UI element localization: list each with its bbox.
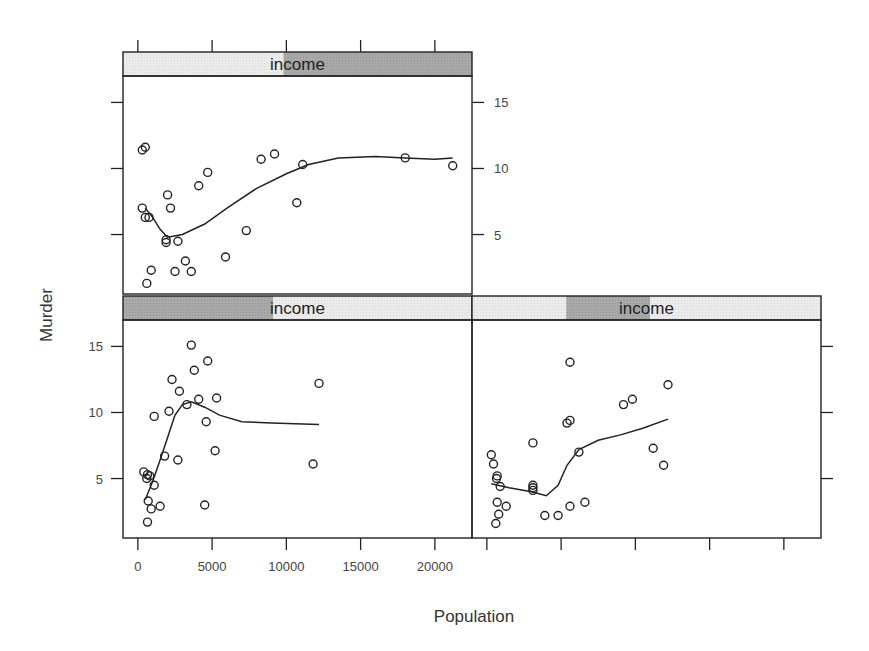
data-point (271, 150, 279, 158)
y-tick-label: 5 (494, 228, 501, 243)
data-point (495, 510, 503, 518)
data-point (164, 191, 172, 199)
data-point (502, 502, 510, 510)
data-point (168, 376, 176, 384)
data-point (211, 447, 219, 455)
y-tick-label: 10 (494, 161, 508, 176)
x-tick-label: 20000 (417, 559, 453, 574)
panel-frame (472, 320, 821, 538)
data-point (190, 366, 198, 374)
data-point (150, 412, 158, 420)
data-point (664, 381, 672, 389)
coplot-chart: income0500010000150002000051015incomeinc… (0, 0, 869, 651)
data-point (222, 253, 230, 261)
panel-bottom-right: income (472, 296, 833, 550)
data-point (309, 460, 317, 468)
y-axis-label: Murder (37, 288, 56, 342)
data-point (660, 461, 668, 469)
data-point (493, 498, 501, 506)
data-point (143, 279, 151, 287)
x-tick-label: 15000 (343, 559, 379, 574)
loess-curve (145, 157, 452, 238)
data-point (628, 395, 636, 403)
loess-curve (145, 402, 319, 500)
data-point (156, 502, 164, 510)
data-point (195, 182, 203, 190)
data-point (315, 379, 323, 387)
y-tick-label: 15 (494, 95, 508, 110)
data-point (187, 341, 195, 349)
data-point (201, 501, 209, 509)
data-point (213, 394, 221, 402)
data-point (144, 497, 152, 505)
x-tick-label: 5000 (198, 559, 227, 574)
data-point (487, 451, 495, 459)
data-point (529, 439, 537, 447)
strip-label: income (270, 299, 325, 318)
data-point (138, 204, 146, 212)
data-point (174, 237, 182, 245)
data-point (195, 395, 203, 403)
data-point (167, 204, 175, 212)
strip-shaded-range (123, 296, 273, 320)
strip-label: income (270, 55, 325, 74)
data-point (554, 512, 562, 520)
y-tick-label: 10 (89, 405, 103, 420)
data-point (257, 155, 265, 163)
data-point (620, 401, 628, 409)
data-point (204, 168, 212, 176)
data-point (490, 460, 498, 468)
data-point (204, 357, 212, 365)
data-point (581, 498, 589, 506)
panel-top-left: income51015 (111, 40, 508, 294)
data-point (187, 268, 195, 276)
data-point (449, 162, 457, 170)
data-point (566, 502, 574, 510)
data-point (492, 520, 500, 528)
y-tick-label: 15 (89, 339, 103, 354)
panel-bottom-left: income0500010000150002000051015 (89, 296, 472, 574)
data-point (147, 505, 155, 513)
data-point (541, 512, 549, 520)
y-tick-label: 5 (96, 472, 103, 487)
panel-frame (123, 320, 472, 538)
data-point (181, 257, 189, 265)
data-point (242, 227, 250, 235)
data-point (165, 407, 173, 415)
x-tick-label: 0 (134, 559, 141, 574)
data-point (566, 358, 574, 366)
x-tick-label: 10000 (268, 559, 304, 574)
data-point (147, 266, 155, 274)
data-point (171, 268, 179, 276)
x-axis-label: Population (434, 607, 514, 626)
data-point (649, 444, 657, 452)
data-point (174, 456, 182, 464)
data-point (202, 418, 210, 426)
data-point (144, 518, 152, 526)
data-point (293, 199, 301, 207)
panel-frame (123, 76, 472, 294)
loess-curve (491, 419, 668, 496)
strip-label: income (619, 299, 674, 318)
data-point (175, 387, 183, 395)
